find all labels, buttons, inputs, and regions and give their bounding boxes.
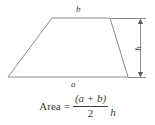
formula-label-area: Area (39, 100, 62, 112)
formula-numerator: (a + b) (73, 93, 108, 106)
trapezoid-shape (8, 18, 128, 77)
label-height-h: h (134, 46, 143, 51)
trapezoid-figure: b a h Area = (a + b) 2 h (0, 0, 155, 125)
label-top-side-b: b (76, 5, 81, 14)
label-bottom-side-a: a (71, 80, 76, 89)
formula-fraction: (a + b) 2 (73, 93, 108, 119)
formula-height-factor: h (108, 106, 116, 119)
area-formula: Area = (a + b) 2 h (0, 93, 155, 119)
formula-equals-sign: = (63, 100, 73, 112)
formula-denominator: 2 (88, 107, 94, 120)
arrowhead-down-icon (138, 72, 143, 78)
arrowhead-up-icon (138, 19, 143, 25)
